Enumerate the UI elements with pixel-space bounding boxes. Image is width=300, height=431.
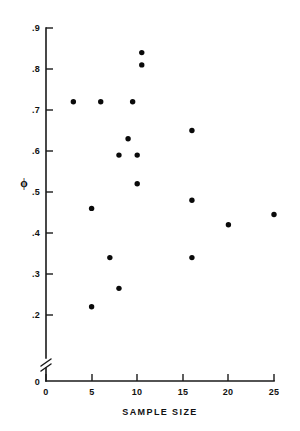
plot-background (0, 0, 300, 431)
data-point (135, 181, 140, 186)
y-tick-label-8: 0 (35, 377, 40, 387)
x-tick-label-1: 5 (89, 387, 94, 397)
data-point (98, 99, 103, 104)
data-point (271, 212, 276, 217)
data-point (189, 255, 194, 260)
data-point (116, 286, 121, 291)
y-tick-label-2: .7 (32, 105, 40, 115)
data-point (89, 304, 94, 309)
x-tick-label-3: 15 (178, 387, 189, 397)
data-point (139, 62, 144, 67)
x-tick-label-0: 0 (43, 387, 48, 397)
y-tick-label-1: .8 (32, 64, 40, 74)
y-tick-label-4: .5 (32, 187, 40, 197)
data-point (116, 152, 121, 157)
x-tick-label-4: 20 (223, 387, 234, 397)
data-point (189, 198, 194, 203)
x-tick-label-2: 10 (132, 387, 143, 397)
scatter-plot-figure: .9 .8 .7 .6 .5 .4 .3 .2 0 ϕ 0 5 10 15 20… (0, 0, 300, 431)
data-point (125, 136, 130, 141)
data-point (189, 128, 194, 133)
y-tick-label-7: .2 (32, 310, 40, 320)
data-point (89, 206, 94, 211)
x-tick-label-5: 25 (269, 387, 280, 397)
y-axis-title: ϕ (20, 176, 28, 190)
y-tick-label-5: .4 (32, 228, 40, 238)
data-point (139, 50, 144, 55)
data-point (71, 99, 76, 104)
x-axis-title: SAMPLE SIZE (122, 407, 197, 417)
y-tick-label-3: .6 (32, 146, 40, 156)
data-point (130, 99, 135, 104)
data-point (107, 255, 112, 260)
y-tick-label-0: .9 (32, 23, 40, 33)
y-tick-label-6: .3 (32, 269, 40, 279)
data-point (226, 222, 231, 227)
data-point (135, 152, 140, 157)
